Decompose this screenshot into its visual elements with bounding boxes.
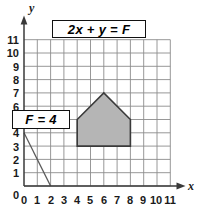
y-tick-10: 10	[0, 48, 19, 59]
y-tick-2: 2	[0, 155, 19, 166]
y-tick-8: 8	[0, 75, 19, 86]
y-axis	[21, 16, 28, 187]
x-tick-7: 7	[110, 195, 124, 206]
y-axis-label: y	[29, 2, 34, 14]
objective-value-label: F = 4	[12, 110, 70, 129]
x-tick-4: 4	[70, 195, 84, 206]
x-axis-label: x	[188, 180, 194, 192]
y-tick-4: 4	[0, 128, 19, 139]
graph-figure: y x 0 1 2 3 4 5 6 7 8 9 10 11 0 1 2 3 4 …	[0, 0, 199, 211]
x-tick-10: 10	[148, 195, 164, 206]
y-tick-3: 3	[0, 142, 19, 153]
y-tick-7: 7	[0, 88, 19, 99]
x-axis	[24, 183, 186, 190]
x-tick-1: 1	[30, 195, 44, 206]
objective-value-text: F = 4	[25, 112, 57, 127]
objective-function-text: 2x + y = F	[68, 22, 130, 37]
x-tick-3: 3	[57, 195, 71, 206]
x-tick-11: 11	[163, 195, 177, 206]
y-tick-1: 1	[0, 168, 19, 179]
x-tick-2: 2	[44, 195, 58, 206]
objective-function-label: 2x + y = F	[52, 20, 146, 38]
x-tick-6: 6	[97, 195, 111, 206]
x-tick-5: 5	[83, 195, 97, 206]
x-tick-8: 8	[123, 195, 137, 206]
y-tick-9: 9	[0, 62, 19, 73]
x-tick-0: 0	[17, 195, 31, 206]
feasible-region-polygon	[77, 93, 130, 146]
y-tick-11: 11	[0, 35, 19, 46]
